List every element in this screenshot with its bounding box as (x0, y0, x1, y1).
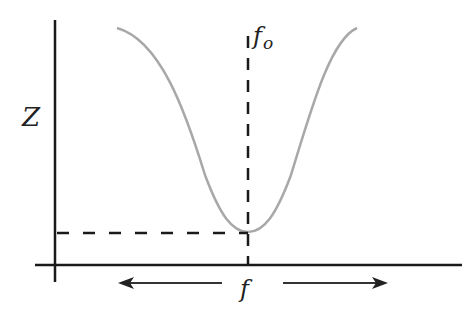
resonance-frequency-label: fo (253, 22, 273, 53)
impedance-curve (117, 28, 357, 232)
diagram-canvas (0, 0, 476, 311)
x-axis-label: f (240, 275, 249, 303)
resonance-label-subscript: o (263, 33, 273, 53)
resonance-label-base: f (253, 22, 262, 50)
y-axis-label: Z (22, 102, 40, 132)
impedance-diagram: Z fo f (0, 0, 476, 311)
